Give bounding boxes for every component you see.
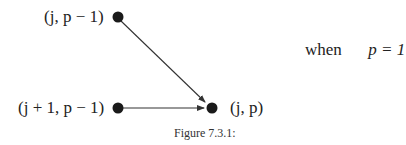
label-target-node-text: (j, p) (230, 98, 263, 117)
figure-caption: Figure 7.3.1: (174, 126, 236, 141)
label-bottom-left-node: (j + 1, p − 1) (18, 99, 104, 116)
condition-expression: p = 1 (368, 40, 405, 59)
node-target (207, 103, 218, 114)
node-top (113, 12, 124, 23)
condition-label: when p = 1 (305, 41, 405, 58)
label-top-node: (j, p − 1) (44, 8, 104, 25)
condition-word: when (305, 40, 342, 59)
label-bottom-left-node-text: (j + 1, p − 1) (18, 98, 104, 117)
label-target-node: (j, p) (230, 99, 263, 116)
label-top-node-text: (j, p − 1) (44, 7, 104, 26)
node-bottom-left (113, 103, 124, 114)
edge-top-to-target (121, 21, 205, 102)
